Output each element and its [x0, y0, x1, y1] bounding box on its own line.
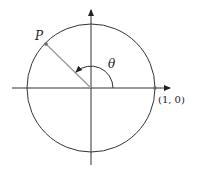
unit-circle-diagram [0, 0, 197, 171]
point-unit-label: (1, 0) [158, 95, 185, 105]
angle-theta-label: θ [108, 58, 115, 70]
point-p-label: P [35, 30, 43, 42]
point-p-dot [44, 42, 48, 46]
radius-line-op [46, 44, 91, 88]
point-unit-dot [153, 86, 157, 90]
